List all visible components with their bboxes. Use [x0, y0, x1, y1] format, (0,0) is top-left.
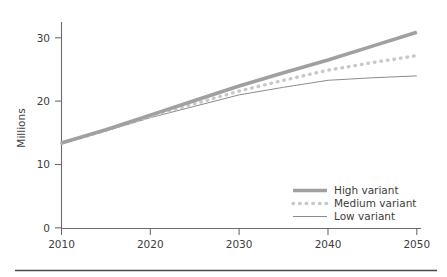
- chart-figure: 30 20 10 0 Millions 2010 2020 2030 2040 …: [0, 0, 447, 277]
- series-line-high-variant: [62, 32, 417, 143]
- line-chart: 30 20 10 0 Millions 2010 2020 2030 2040 …: [0, 0, 447, 277]
- legend-label-medium-variant: Medium variant: [334, 197, 416, 209]
- x-tick-label-2020: 2020: [137, 238, 164, 250]
- x-tick-label-2050: 2050: [403, 238, 430, 250]
- y-tick-label-30: 30: [37, 32, 50, 44]
- x-tick-label-2040: 2040: [315, 238, 342, 250]
- series-line-medium-variant: [62, 56, 417, 143]
- legend-label-high-variant: High variant: [334, 184, 399, 196]
- y-axis-title: Millions: [15, 108, 27, 147]
- x-tick-label-2030: 2030: [226, 238, 253, 250]
- x-tick-label-2010: 2010: [48, 238, 75, 250]
- y-tick-label-20: 20: [37, 95, 50, 107]
- y-tick-label-10: 10: [37, 158, 50, 170]
- legend-label-low-variant: Low variant: [334, 210, 395, 222]
- y-tick-label-0: 0: [43, 222, 50, 234]
